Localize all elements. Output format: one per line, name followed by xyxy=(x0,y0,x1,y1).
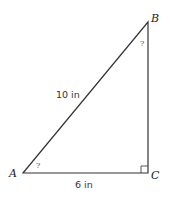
side-label-hypotenuse: 10 in xyxy=(56,89,80,100)
triangle-abc xyxy=(23,22,148,173)
angle-label-b: ? xyxy=(140,39,144,48)
angle-label-a: ? xyxy=(36,161,40,170)
vertex-label-a: A xyxy=(8,167,17,180)
triangle-diagram: A B C 10 in 6 in ? ? xyxy=(0,0,171,200)
vertex-label-b: B xyxy=(150,12,159,25)
side-label-base: 6 in xyxy=(75,179,93,190)
vertex-label-c: C xyxy=(151,169,160,182)
right-angle-marker xyxy=(141,166,148,173)
